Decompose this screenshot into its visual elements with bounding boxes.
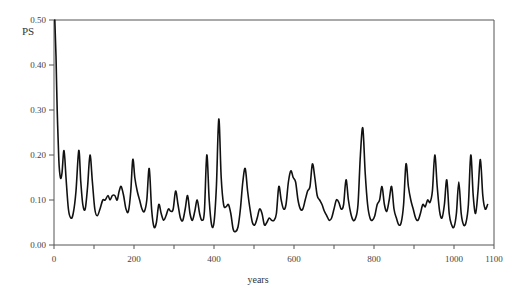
x-tick-label: 1000 [445,254,464,264]
x-axis-title: years [247,274,268,285]
x-tick-label: 800 [367,254,381,264]
y-tick-label: 0.40 [30,60,46,70]
y-tick-label: 0.00 [30,240,46,250]
x-tick-label: 0 [52,254,57,264]
plot-frame [54,20,494,245]
y-tick-label: 0.20 [30,150,46,160]
line-chart: 0.000.100.200.300.400.50 020040060080010… [0,0,515,299]
y-axis-ticks: 0.000.100.200.300.400.50 [30,15,54,250]
y-tick-label: 0.10 [30,195,46,205]
x-tick-label: 600 [287,254,301,264]
x-tick-label: 400 [207,254,221,264]
y-axis-title: PS [22,25,34,37]
x-tick-label: 1100 [485,254,503,264]
x-tick-label: 200 [127,254,141,264]
x-axis-ticks: 020040060080010001100 [52,245,504,264]
y-tick-label: 0.50 [30,15,46,25]
y-tick-label: 0.30 [30,105,46,115]
ps-series-line [55,20,488,232]
